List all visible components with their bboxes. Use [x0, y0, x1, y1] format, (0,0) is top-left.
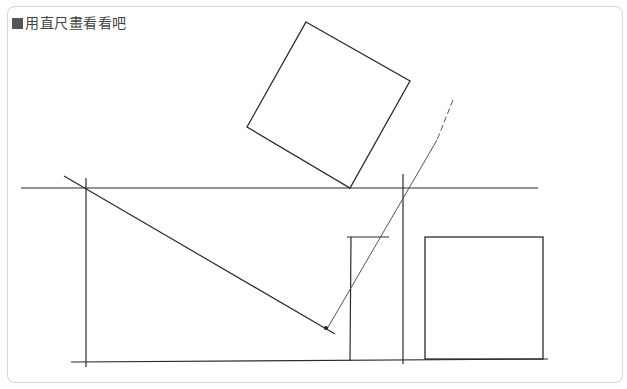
dashed-guide-line — [437, 100, 453, 140]
rotated-square — [247, 22, 410, 188]
drawing-canvas — [0, 0, 627, 389]
short-vertical-line — [350, 237, 351, 361]
slanted-line — [327, 140, 437, 329]
diagonal-line — [64, 176, 335, 334]
intersection-dot — [324, 326, 328, 330]
upright-square — [425, 237, 543, 359]
